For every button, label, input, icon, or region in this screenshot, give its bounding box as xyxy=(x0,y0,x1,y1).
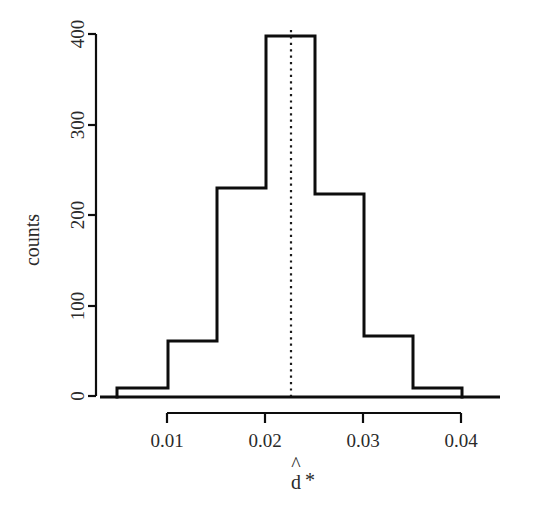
x-tick-label-0.04: 0.04 xyxy=(444,430,478,451)
y-tick-label-400: 400 xyxy=(67,20,88,49)
y-tick-label-100: 100 xyxy=(67,292,88,321)
y-tick-label-0: 0 xyxy=(67,391,88,401)
histogram-step-outline xyxy=(117,36,462,397)
x-tick-label-0.01: 0.01 xyxy=(150,430,183,451)
y-axis: 400 300 200 100 0 counts xyxy=(21,20,96,401)
y-axis-title: counts xyxy=(21,214,43,266)
plot-canvas: 400 300 200 100 0 counts 0.01 0.02 xyxy=(0,0,545,508)
x-tick-label-0.02: 0.02 xyxy=(248,430,281,451)
x-axis-title-suffix: * xyxy=(305,469,315,491)
histogram-bars xyxy=(100,36,500,397)
x-axis: 0.01 0.02 0.03 0.04 ^ d * xyxy=(150,413,478,493)
x-tick-label-0.03: 0.03 xyxy=(346,430,379,451)
histogram-figure: 400 300 200 100 0 counts 0.01 0.02 xyxy=(0,0,545,508)
x-axis-title: ^ d * xyxy=(291,453,315,493)
y-tick-label-300: 300 xyxy=(67,111,88,140)
y-tick-label-200: 200 xyxy=(67,201,88,230)
x-axis-title-base: d xyxy=(291,471,301,493)
